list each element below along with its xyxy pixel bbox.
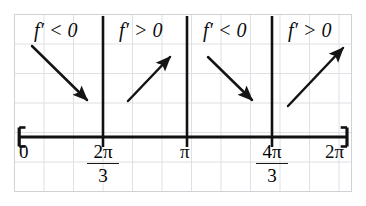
interval-4-sign-label: f′ > 0	[288, 20, 331, 40]
axis-label-two-pi: 2π	[325, 142, 344, 161]
interval-3-sign-label: f′ < 0	[203, 20, 246, 40]
tick-label-4pi-over-3-denominator: 3	[256, 165, 288, 185]
interval-2-sign-text: f′ > 0	[119, 19, 162, 41]
interval-1-sign-text: f′ < 0	[34, 19, 77, 41]
tick-label-4pi-over-3-numerator: 4π	[256, 142, 288, 162]
axis-label-zero: 0	[19, 142, 29, 161]
fraction-bar	[87, 163, 119, 164]
tick-label-4pi-over-3: 4π 3	[256, 142, 288, 185]
axis-label-zero-text: 0	[19, 141, 29, 162]
interval-2-sign-label: f′ > 0	[119, 20, 162, 40]
interval-4-sign-text: f′ > 0	[288, 19, 331, 41]
sign-chart-figure: f′ < 0 f′ > 0 f′ < 0 f′ > 0 0 2π 2π 3 π …	[0, 0, 366, 206]
tick-label-2pi-over-3: 2π 3	[87, 142, 119, 185]
fraction-bar	[256, 163, 288, 164]
tick-label-2pi-over-3-numerator: 2π	[87, 142, 119, 162]
tick-label-pi: π	[180, 142, 190, 161]
axis-label-two-pi-text: 2π	[325, 141, 344, 162]
interval-3-sign-text: f′ < 0	[203, 19, 246, 41]
interval-1-sign-label: f′ < 0	[34, 20, 77, 40]
tick-label-2pi-over-3-denominator: 3	[87, 165, 119, 185]
tick-label-pi-text: π	[180, 141, 190, 162]
